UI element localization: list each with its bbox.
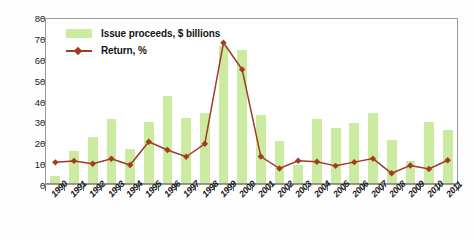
legend-label-issue-proceeds: Issue proceeds, $ billions	[101, 28, 220, 39]
legend-item-issue-proceeds: Issue proceeds, $ billions	[66, 26, 220, 41]
chart-figure: 01020304050607080 1990199119921993199419…	[0, 0, 474, 240]
return-marker-1990	[52, 159, 58, 165]
return-marker-1992	[89, 161, 95, 167]
x-tick-mark	[45, 185, 46, 191]
return-marker-2005	[332, 163, 338, 169]
chart-legend: Issue proceeds, $ billions Return, %	[66, 26, 220, 60]
y-axis: 01020304050607080	[14, 18, 45, 185]
return-line-path	[55, 43, 447, 174]
return-marker-2010	[426, 166, 432, 172]
legend-item-return: Return, %	[66, 43, 220, 58]
return-marker-2011	[444, 157, 450, 163]
return-marker-2003	[295, 157, 301, 163]
return-marker-1993	[108, 156, 114, 162]
return-marker-2004	[314, 159, 320, 165]
legend-label-return: Return, %	[101, 45, 147, 56]
return-marker-1996	[164, 147, 170, 153]
line-swatch-icon	[66, 46, 92, 55]
return-marker-1991	[71, 158, 77, 164]
bar-swatch-icon	[66, 29, 92, 38]
return-marker-2009	[407, 162, 413, 168]
return-marker-2006	[351, 159, 357, 165]
x-axis-labels: 1990199119921993199419951996199719981999…	[45, 192, 458, 238]
